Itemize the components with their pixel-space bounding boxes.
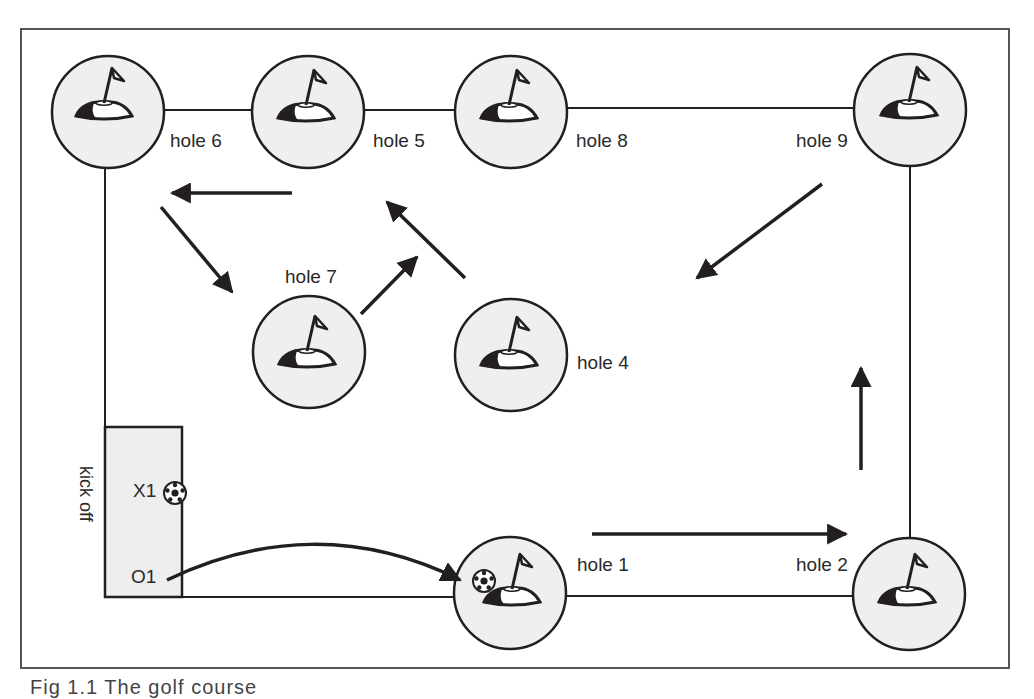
arrow-hole6-to-hole7: [161, 207, 232, 292]
kickoff-label: kick off: [77, 466, 95, 522]
hole-2: [853, 538, 965, 650]
hole-2-label: hole 2: [796, 555, 848, 574]
hole-9-label: hole 9: [796, 131, 848, 150]
hole-8: [455, 56, 567, 168]
hole-4-label: hole 4: [577, 353, 629, 372]
soccer-ball-icon: [164, 482, 186, 504]
hole-6: [52, 56, 164, 168]
hole-8-label: hole 8: [576, 131, 628, 150]
figure-caption: Fig 1.1 The golf course: [30, 676, 257, 699]
hole-7-label: hole 7: [285, 267, 337, 286]
arrow-hole7-to-hole8: [361, 257, 417, 314]
arrow-kickoff-to-hole1: [167, 544, 460, 580]
hole-5-label: hole 5: [373, 131, 425, 150]
hole-4: [455, 299, 567, 411]
arrow-hole4-to-hole5: [387, 202, 465, 278]
hole-9: [854, 54, 966, 166]
player-o1-label: O1: [131, 566, 156, 587]
hole-7: [253, 296, 365, 408]
player-x1-label: X1: [133, 480, 156, 501]
hole-1: [454, 537, 566, 649]
soccer-ball-icon: [473, 570, 495, 592]
hole-5: [252, 56, 364, 168]
hole-6-label: hole 6: [170, 131, 222, 150]
arrow-hole9-to-hole4: [697, 184, 822, 278]
hole-1-label: hole 1: [577, 555, 629, 574]
